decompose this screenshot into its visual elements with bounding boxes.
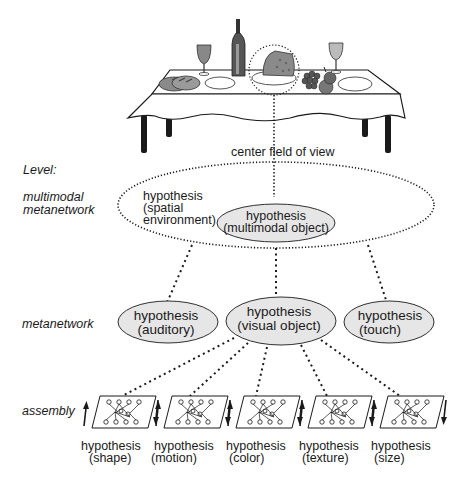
touch-line2: (touch) — [359, 323, 401, 337]
level-header: Level: — [23, 164, 56, 177]
assembly-shape-line2: (shape) — [89, 452, 131, 465]
touch-line1: hypothesis — [358, 309, 423, 323]
cropped-caption — [15, 478, 445, 484]
visual-object-line2: (visual object) — [237, 319, 320, 333]
table-scene — [128, 19, 405, 153]
level-assembly: assembly — [22, 405, 75, 418]
assembly-motion-line2: (motion) — [151, 452, 197, 465]
level-multimodal-line2: metanetwork — [23, 204, 95, 217]
auditory-line2: (auditory) — [137, 323, 194, 337]
assembly-networks — [83, 396, 447, 428]
level-metanetwork: metanetwork — [22, 318, 94, 331]
assembly-texture-line2: (texture) — [302, 452, 349, 465]
multimodal-object-line2: (multimodal object) — [223, 222, 329, 235]
visual-object-line1: hypothesis — [247, 305, 312, 319]
spatial-hypothesis-line3: environment) — [143, 214, 216, 227]
assembly-size-line2: (size) — [374, 452, 405, 465]
assembly-color-line2: (color) — [229, 452, 264, 465]
auditory-line1: hypothesis — [134, 309, 199, 323]
center-field-label: center field of view — [231, 146, 335, 159]
